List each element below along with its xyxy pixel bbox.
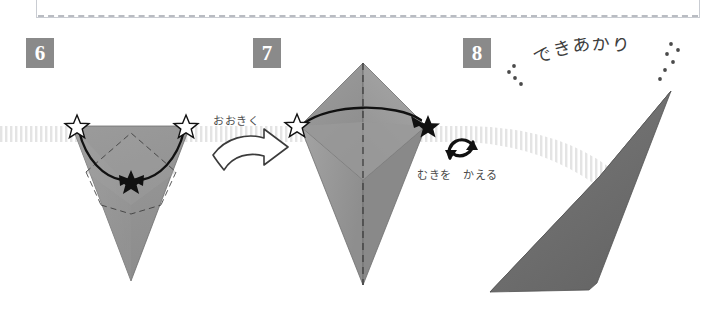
annotation-muki-wo-kaeru: むきを かえる xyxy=(417,166,498,182)
origami-instruction-page: できあがり 6 7 8 おおきく むきを かえる xyxy=(0,0,709,312)
step-number-badge-7: 7 xyxy=(253,38,281,68)
step-8-facet-dark xyxy=(490,91,671,292)
step-8-figure xyxy=(0,0,709,312)
step-number-badge-8: 8 xyxy=(463,38,491,68)
annotation-ookiku: おおきく xyxy=(213,112,259,128)
step-number-badge-6: 6 xyxy=(26,38,54,68)
